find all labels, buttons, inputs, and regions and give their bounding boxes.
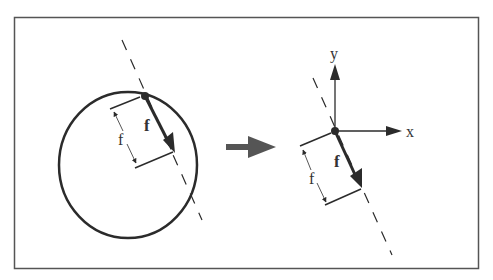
x-axis-label: x [406, 123, 414, 140]
dimension-extension-top-right [300, 133, 331, 146]
dimension-extension-top [110, 97, 140, 109]
transform-arrow-icon [226, 136, 276, 158]
y-axis-arrowhead-icon [330, 64, 340, 80]
dimension-line-lower-right [317, 183, 326, 202]
dimension-label: f [118, 131, 124, 148]
figure-frame [15, 18, 479, 269]
left-panel: f f [59, 40, 202, 238]
diagram-canvas: f f y x f f [0, 0, 493, 280]
force-vector-label-right: f [334, 152, 340, 171]
y-axis-label: y [330, 45, 338, 63]
force-vector-label: f [144, 116, 150, 135]
dimension-line-upper-right [303, 150, 311, 170]
dimension-line-upper [114, 112, 123, 131]
dimension-label-right: f [309, 170, 315, 187]
dimension-extension-bottom [135, 152, 173, 168]
x-axis-arrowhead-icon [386, 126, 402, 136]
dimension-extension-bottom-right [325, 189, 361, 205]
dimension-line-lower [127, 144, 136, 163]
right-panel: y x f f [300, 45, 414, 255]
circle-body [59, 92, 197, 238]
